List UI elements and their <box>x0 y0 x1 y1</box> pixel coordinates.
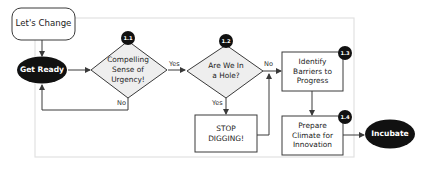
hole-yes-label: Yes <box>212 99 223 107</box>
prepare-climate-label: Prepare Climate for Innovation <box>282 116 343 155</box>
hole-no-label: No <box>264 60 273 68</box>
urgency-no-label: No <box>117 99 126 107</box>
hole-label: Are We In a Hole? <box>196 56 256 86</box>
badge-1-3-label: 1.3 <box>338 46 352 60</box>
stop-digging-label: STOP DIGGING! <box>195 115 257 152</box>
urgency-label: Compelling Sense of Urgency! <box>98 52 158 88</box>
badge-1-2-label: 1.2 <box>219 34 233 48</box>
lets-change-label: Let's Change <box>12 8 75 40</box>
badge-1-1-label: 1.1 <box>121 31 135 45</box>
incubate-label: Incubate <box>365 120 415 148</box>
urgency-yes-label: Yes <box>169 60 180 68</box>
get-ready-label: Get Ready <box>17 57 67 84</box>
identify-barriers-label: Identify Barriers to Progress <box>282 52 343 91</box>
badge-1-4-label: 1.4 <box>338 110 352 124</box>
